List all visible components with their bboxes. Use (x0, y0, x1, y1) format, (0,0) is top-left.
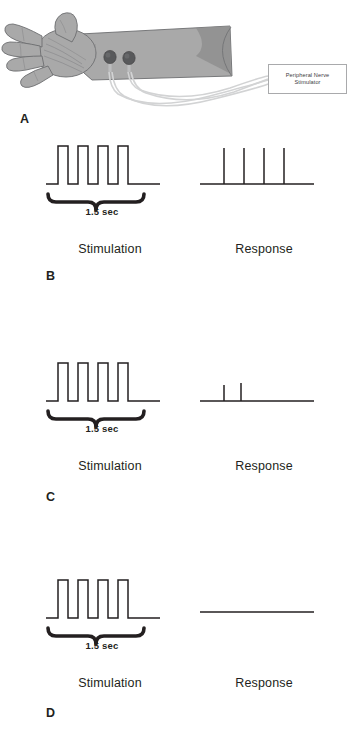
square-pulse-train-d (46, 580, 160, 618)
stimulation-waveform-d (44, 572, 176, 668)
panel-d-response-column: Response (198, 572, 330, 668)
response-waveform-c (198, 355, 330, 451)
stimulation-caption-c: Stimulation (44, 459, 176, 473)
panel-d: 1.5 sec Stimulation Response (0, 572, 351, 712)
electrode-1-highlight (106, 52, 111, 57)
response-waveform-b (198, 138, 330, 234)
panel-c: 1.5 sec Stimulation Response (0, 355, 351, 495)
response-caption-c: Response (198, 459, 330, 473)
duration-label-b: 1.5 sec (44, 206, 160, 217)
electrode-2-highlight (125, 53, 130, 58)
square-pulse-train-b (46, 146, 160, 184)
electrode-1 (104, 50, 116, 63)
peripheral-nerve-stimulator-box: Peripheral Nerve Stimulator (268, 64, 347, 94)
panel-d-stimulation-column: 1.5 sec Stimulation (44, 572, 176, 668)
panel-b-response-column: Response (198, 138, 330, 234)
panel-letter-d: D (46, 706, 55, 720)
response-waveform-d (198, 572, 330, 668)
stimulator-label-line1: Peripheral Nerve (286, 72, 330, 79)
duration-label-c: 1.5 sec (44, 423, 160, 434)
panel-letter-b: B (46, 269, 55, 283)
stimulation-caption-b: Stimulation (44, 242, 176, 256)
square-pulse-train-c (46, 363, 160, 401)
panel-b-stimulation-column: 1.5 sec Stimulation (44, 138, 176, 234)
stimulation-caption-d: Stimulation (44, 676, 176, 690)
panel-c-stimulation-column: 1.5 sec Stimulation (44, 355, 176, 451)
response-caption-b: Response (198, 242, 330, 256)
panel-b: 1.5 sec Stimulation Response (0, 138, 351, 278)
stimulator-label-line2: Stimulator (294, 79, 320, 86)
panel-letter-a: A (20, 112, 29, 126)
panel-letter-c: C (46, 490, 55, 504)
panel-a-anatomy: Peripheral Nerve Stimulator A (0, 0, 351, 135)
electrode-2 (123, 51, 135, 64)
stimulation-waveform-c (44, 355, 176, 451)
duration-label-d: 1.5 sec (44, 640, 160, 651)
panel-c-response-column: Response (198, 355, 330, 451)
response-caption-d: Response (198, 676, 330, 690)
stimulation-waveform-b (44, 138, 176, 234)
